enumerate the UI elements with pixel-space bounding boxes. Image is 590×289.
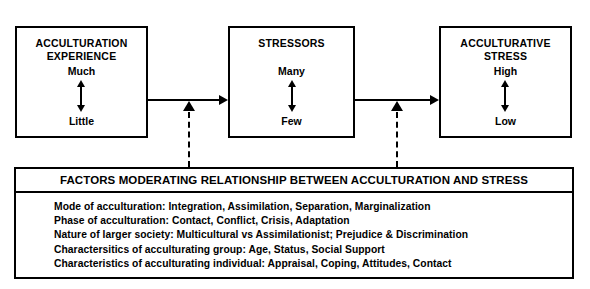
moderating-factors-title: FACTORS MODERATING RELATIONSHIP BETWEEN …: [60, 174, 528, 186]
pole-scale-stressors: Many Few: [278, 65, 305, 127]
moderating-factors-panel: FACTORS MODERATING RELATIONSHIP BETWEEN …: [14, 167, 574, 279]
double-headed-arrow-icon: [498, 80, 512, 112]
factor-item: Charactersitics of acculturating group: …: [54, 243, 572, 257]
pole-label-low-acculturation-experience: Little: [69, 115, 94, 127]
box-title-acculturation-experience: ACCULTURATION EXPERIENCE: [35, 37, 127, 62]
double-headed-arrow-icon: [285, 80, 299, 112]
pole-label-high-acculturation-experience: Much: [68, 65, 95, 77]
concept-box-stressors: STRESSORS Many Few: [228, 26, 355, 138]
moderator-arrowhead-icon-left: [183, 101, 195, 111]
pole-label-high-acculturative-stress: High: [494, 65, 517, 77]
moderating-factors-header: FACTORS MODERATING RELATIONSHIP BETWEEN …: [16, 169, 572, 193]
double-headed-arrow-icon: [74, 80, 88, 112]
moderator-arrowhead-icon-right: [391, 101, 403, 111]
box-title-stressors: STRESSORS: [258, 37, 325, 50]
concept-box-acculturative-stress: ACCULTURATIVE STRESS High Low: [439, 26, 572, 138]
factor-item: Characteristics of acculturating individ…: [54, 257, 572, 271]
factor-item: Phase of acculturation: Contact, Conflic…: [54, 214, 572, 228]
arrowhead-icon-stressors-to-stress: [430, 95, 439, 105]
concept-box-acculturation-experience: ACCULTURATION EXPERIENCE Much Little: [15, 26, 148, 138]
pole-label-low-acculturative-stress: Low: [495, 115, 516, 127]
factor-item: Mode of acculturation: Integration, Assi…: [54, 200, 572, 214]
moderating-factors-list: Mode of acculturation: Integration, Assi…: [16, 193, 572, 271]
pole-scale-acculturation-experience: Much Little: [68, 65, 95, 127]
factor-item: Nature of larger society: Multicultural …: [54, 228, 572, 242]
box-title-acculturative-stress: ACCULTURATIVE STRESS: [460, 37, 550, 62]
pole-scale-acculturative-stress: High Low: [494, 65, 517, 127]
moderator-dashed-line-left: [188, 112, 190, 167]
diagram-canvas: ACCULTURATION EXPERIENCE Much Little STR…: [0, 0, 590, 289]
pole-label-low-stressors: Few: [281, 115, 301, 127]
pole-label-high-stressors: Many: [278, 65, 305, 77]
arrowhead-icon-experience-to-stressors: [219, 95, 228, 105]
moderator-dashed-line-right: [396, 112, 398, 167]
